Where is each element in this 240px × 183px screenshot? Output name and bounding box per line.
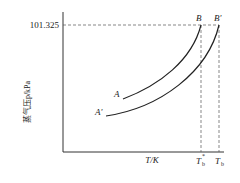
y-axis-label: 蒸气压p/kPa — [22, 80, 32, 123]
x-tick-tb: T b — [215, 156, 224, 167]
point-label-a: A — [113, 89, 120, 99]
tick-label-subscript: b — [202, 161, 205, 167]
tick-label-superscript: * — [202, 153, 205, 159]
x-axis-label: T/K — [145, 155, 160, 165]
point-label-a-prime: A' — [94, 107, 103, 117]
point-label-b: B — [196, 13, 202, 23]
tick-label-subscript: b — [221, 161, 224, 167]
vapor-pressure-diagram: 101.325 蒸气压p/kPa T/K A A' B B' T b * T b — [0, 0, 240, 183]
curve-a-prime — [106, 25, 219, 116]
x-tick-tb-star: T b * — [196, 153, 205, 167]
y-tick-label: 101.325 — [30, 20, 60, 30]
point-label-b-prime: B' — [214, 13, 222, 23]
curve-a — [123, 25, 201, 99]
